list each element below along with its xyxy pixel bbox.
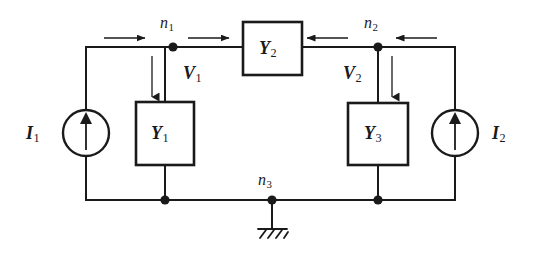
node-dot-junction-y1	[160, 195, 169, 204]
node-dot-n2	[373, 42, 382, 51]
current-sources	[63, 110, 478, 156]
label-voltage-v1: V1	[183, 64, 202, 85]
ground-hatch-1	[260, 230, 266, 238]
node-dot-n1	[168, 42, 177, 51]
ground-hatch-4	[284, 232, 288, 238]
ground-hatch-2	[268, 230, 274, 238]
label-voltage-v2: V2	[343, 64, 362, 85]
node-dot-n3	[267, 195, 276, 204]
label-node-n1: n1	[160, 15, 174, 33]
label-admittance-y3: Y3	[364, 124, 382, 145]
label-node-n3: n3	[258, 172, 272, 190]
ground-symbol	[258, 229, 288, 238]
label-current-i1: I1	[26, 124, 40, 145]
label-current-i2: I2	[492, 124, 506, 145]
ground-hatch-3	[276, 230, 282, 238]
label-admittance-y2: Y2	[259, 39, 277, 60]
circuit-diagram: n1 n2 n3 V1 V2 I1 I2 Y1 Y2 Y3	[0, 0, 540, 267]
label-admittance-y1: Y1	[151, 124, 169, 145]
node-dot-junction-y3	[373, 195, 382, 204]
label-node-n2: n2	[364, 15, 378, 33]
